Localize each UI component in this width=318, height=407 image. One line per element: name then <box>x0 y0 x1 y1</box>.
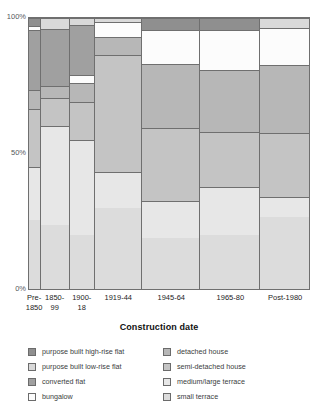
legend-swatch-icon <box>163 393 171 401</box>
legend-swatch-icon <box>28 393 36 401</box>
x-axis-tick-labels: Pre- 18501850- 991900- 181919-441945-641… <box>28 293 310 317</box>
column-1900-18 <box>70 18 95 289</box>
legend-item-purpose-built-high-rise-flat[interactable]: purpose built high-rise flat <box>28 344 173 359</box>
legend-label: detached house <box>177 347 228 356</box>
segment-detached-house <box>142 64 199 128</box>
segment-detached-house <box>29 90 40 109</box>
segment-small-terrace <box>142 238 199 289</box>
segment-medium-large-terrace <box>142 201 199 238</box>
column-pre-1850 <box>29 18 41 289</box>
legend-swatch-icon <box>163 348 171 356</box>
segment-small-terrace <box>200 235 259 289</box>
segment-semi-detached-house <box>95 55 142 173</box>
legend-item-detached-house[interactable]: detached house <box>163 344 308 359</box>
segment-small-terrace <box>29 220 40 289</box>
legend-label: bungalow <box>42 392 73 401</box>
x-tick-1919-44: 1919-44 <box>92 293 144 303</box>
legend-label: small terrace <box>177 392 218 401</box>
segment-converted-flat <box>29 30 40 90</box>
legend-swatch-icon <box>28 348 36 356</box>
segment-medium-large-terrace <box>70 140 94 235</box>
y-tick-0: 0% <box>15 285 26 293</box>
segment-purpose-built-low-rise-flat <box>41 18 69 29</box>
segment-medium-large-terrace <box>95 172 142 207</box>
segment-detached-house <box>200 70 259 132</box>
column-post-1980 <box>260 18 309 289</box>
legend-item-small-terrace[interactable]: small terrace <box>163 389 308 404</box>
x-tick-post-1980: Post-1980 <box>259 293 311 303</box>
segment-semi-detached-house <box>41 98 69 126</box>
legend-label: purpose built high-rise flat <box>42 347 124 356</box>
segment-detached-house <box>260 65 309 133</box>
segment-semi-detached-house <box>260 133 309 197</box>
y-axis: 100% 50% 0% <box>0 0 28 300</box>
segment-purpose-built-low-rise-flat <box>260 18 309 27</box>
segment-bungalow <box>260 28 309 66</box>
segment-detached-house <box>95 37 142 55</box>
segment-bungalow <box>95 22 142 37</box>
segment-purpose-built-high-rise-flat <box>142 18 199 30</box>
legend-item-bungalow[interactable]: bungalow <box>28 389 173 404</box>
segment-medium-large-terrace <box>200 187 259 234</box>
segment-semi-detached-house <box>70 102 94 140</box>
legend-item-converted-flat[interactable]: converted flat <box>28 374 173 389</box>
legend: purpose built high-rise flatpurpose buil… <box>0 344 318 406</box>
segment-purpose-built-low-rise-flat <box>70 18 94 25</box>
segment-semi-detached-house <box>200 132 259 188</box>
plot-area-wrapper: 100% 50% 0% Pre- 18501850- 991900- 18191… <box>0 0 318 300</box>
segment-small-terrace <box>41 225 69 289</box>
segment-semi-detached-house <box>29 109 40 167</box>
x-axis-title: Construction date <box>0 322 318 332</box>
segment-semi-detached-house <box>142 128 199 201</box>
legend-swatch-icon <box>163 363 171 371</box>
segment-medium-large-terrace <box>260 197 309 217</box>
y-tick-100: 100% <box>7 13 26 21</box>
legend-column-left: purpose built high-rise flatpurpose buil… <box>28 344 173 404</box>
mosaic-chart: 100% 50% 0% Pre- 18501850- 991900- 18191… <box>0 0 318 407</box>
legend-item-medium-large-terrace[interactable]: medium/large terrace <box>163 374 308 389</box>
x-tick-1965-80: 1965-80 <box>204 293 256 303</box>
segment-bungalow <box>200 30 259 69</box>
segment-purpose-built-high-rise-flat <box>29 18 40 26</box>
legend-swatch-icon <box>28 363 36 371</box>
legend-label: medium/large terrace <box>177 377 245 386</box>
segment-detached-house <box>70 83 94 102</box>
segment-medium-large-terrace <box>29 167 40 220</box>
segment-small-terrace <box>260 217 309 289</box>
segment-detached-house <box>41 86 69 98</box>
segment-converted-flat <box>41 29 69 86</box>
segment-bungalow <box>142 30 199 64</box>
legend-label: semi-detached house <box>177 362 246 371</box>
segment-medium-large-terrace <box>41 126 69 225</box>
legend-item-semi-detached-house[interactable]: semi-detached house <box>163 359 308 374</box>
segment-small-terrace <box>95 208 142 289</box>
legend-item-purpose-built-low-rise-flat[interactable]: purpose built low-rise flat <box>28 359 173 374</box>
column-1850-99 <box>41 18 70 289</box>
legend-label: converted flat <box>42 377 85 386</box>
x-tick-1945-64: 1945-64 <box>145 293 197 303</box>
legend-swatch-icon <box>163 378 171 386</box>
column-1945-64 <box>142 18 200 289</box>
segment-converted-flat <box>70 25 94 75</box>
stacked-columns <box>28 17 310 290</box>
legend-column-right: detached housesemi-detached housemedium/… <box>163 344 308 404</box>
column-1965-80 <box>200 18 260 289</box>
legend-label: purpose built low-rise flat <box>42 362 122 371</box>
legend-swatch-icon <box>28 378 36 386</box>
segment-small-terrace <box>70 235 94 289</box>
y-tick-50: 50% <box>11 149 26 157</box>
segment-bungalow <box>70 75 94 83</box>
column-1919-44 <box>95 18 143 289</box>
segment-purpose-built-high-rise-flat <box>200 18 259 30</box>
